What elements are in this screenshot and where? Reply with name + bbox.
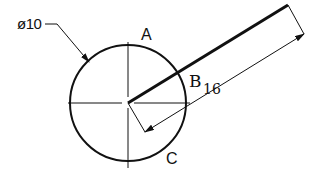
drawing-geometry: [0, 0, 317, 181]
point-c-label: C: [166, 151, 178, 167]
diameter-label: ø10: [17, 16, 41, 31]
dimension-line: [145, 34, 304, 132]
point-a-label: A: [141, 27, 152, 43]
technical-drawing: ø10 A B 16 C: [0, 0, 317, 181]
point-b-label: B: [189, 73, 202, 90]
diameter-leader: [45, 24, 89, 62]
extension-line-inner: [128, 103, 145, 132]
dimension-value-label: 16: [203, 82, 221, 96]
extension-line-outer: [288, 5, 304, 34]
